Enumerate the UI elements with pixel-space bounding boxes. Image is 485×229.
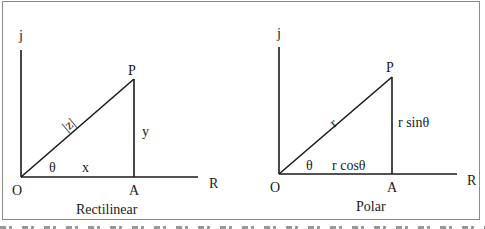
origin-label: O xyxy=(12,183,22,198)
point-p-label: P xyxy=(128,63,136,78)
modulus-label: |z| xyxy=(59,115,78,134)
foot-a-label: A xyxy=(387,180,398,195)
j-axis-label: j xyxy=(18,28,23,43)
r-cos-theta-label: r cosθ xyxy=(332,158,366,173)
polar-panel xyxy=(279,47,457,174)
y-label: y xyxy=(142,124,149,139)
j-axis-label: j xyxy=(276,26,281,41)
panel-title-polar: Polar xyxy=(356,199,386,214)
angle-theta-label: θ xyxy=(49,160,56,175)
rectilinear-panel xyxy=(21,50,198,177)
angle-theta-label: θ xyxy=(306,158,313,173)
point-p-label: P xyxy=(386,60,394,75)
foot-a-label: A xyxy=(129,183,140,198)
hypotenuse-oz xyxy=(21,79,134,177)
panel-title-rectilinear: Rectilinear xyxy=(76,202,138,217)
r-axis-label: R xyxy=(209,176,219,191)
x-label: x xyxy=(82,160,89,175)
clipped-caption xyxy=(0,223,485,229)
origin-label: O xyxy=(270,180,280,195)
r-sin-theta-label: r sinθ xyxy=(398,115,430,130)
r-axis-label: R xyxy=(467,173,477,188)
complex-plane-diagram: j R O P A |z| θ x y Rectilinear j R O P … xyxy=(0,0,485,229)
